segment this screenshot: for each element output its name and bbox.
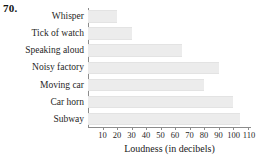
bar-car-horn xyxy=(88,96,233,108)
x-tick-label: 110 xyxy=(243,130,255,140)
bar-moving-car xyxy=(88,79,204,91)
category-label-speaking-aloud: Speaking aloud xyxy=(25,42,84,59)
bar-subway xyxy=(88,113,240,125)
x-tick-label: 60 xyxy=(171,130,180,140)
x-tick-label: 70 xyxy=(185,130,194,140)
x-tick-label: 40 xyxy=(142,130,151,140)
x-tick-label: 50 xyxy=(156,130,165,140)
bar-speaking-aloud xyxy=(88,44,182,56)
bar-row: Speaking aloud xyxy=(88,42,250,59)
category-label-subway: Subway xyxy=(53,111,84,128)
bar-row: Subway xyxy=(88,111,250,128)
x-axis-title: Loudness (in decibels) xyxy=(88,143,251,154)
category-label-whisper: Whisper xyxy=(52,8,84,25)
problem-number: 70. xyxy=(3,2,17,14)
x-tick-label: 100 xyxy=(227,130,240,140)
bar-noisy-factory xyxy=(88,62,219,74)
x-tick-label: 80 xyxy=(200,130,209,140)
bar-row: Whisper xyxy=(88,8,250,25)
bar-row: Noisy factory xyxy=(88,59,250,76)
x-tick-label: 30 xyxy=(127,130,136,140)
x-tick-label: 10 xyxy=(98,130,107,140)
x-tick-label: 90 xyxy=(214,130,223,140)
category-label-tick-of-watch: Tick of watch xyxy=(32,25,84,42)
bar-tick-of-watch xyxy=(88,27,132,39)
plot-area: Whisper Tick of watch Speaking aloud Noi… xyxy=(88,8,250,128)
category-label-moving-car: Moving car xyxy=(40,77,84,94)
category-label-noisy-factory: Noisy factory xyxy=(32,59,84,76)
bar-row: Tick of watch xyxy=(88,25,250,42)
bar-whisper xyxy=(88,10,117,22)
bar-row: Moving car xyxy=(88,77,250,94)
x-tick-label: 20 xyxy=(113,130,122,140)
bar-row: Car horn xyxy=(88,94,250,111)
figure-bar-chart-loudness: 70. Whisper Tick of watch Speaking aloud… xyxy=(0,0,267,160)
category-label-car-horn: Car horn xyxy=(50,94,84,111)
